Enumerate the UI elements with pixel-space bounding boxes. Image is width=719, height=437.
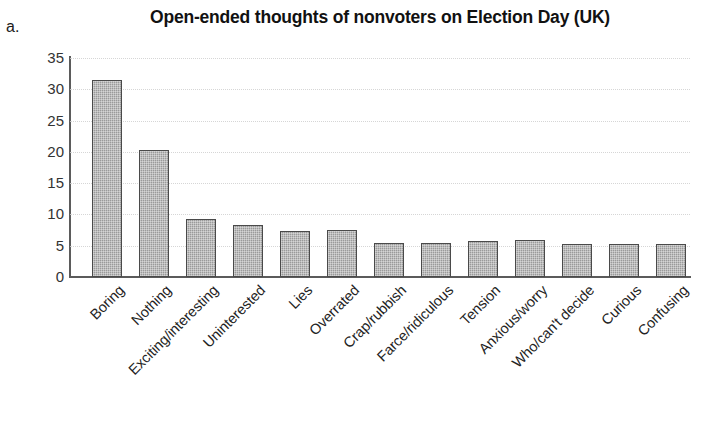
category-label: Who/can't decide — [508, 282, 597, 371]
bar — [609, 244, 639, 277]
category-label: Nothing — [128, 282, 174, 328]
chart-figure: a. Open-ended thoughts of nonvoters on E… — [0, 0, 719, 437]
bar — [186, 219, 216, 277]
bar — [468, 241, 498, 277]
bar — [92, 80, 122, 277]
y-tick-label: 15 — [24, 175, 64, 190]
y-tick-label: 20 — [24, 144, 64, 159]
bar — [421, 243, 451, 277]
y-tick-label: 0 — [24, 269, 64, 284]
category-label: Confusing — [634, 282, 691, 339]
chart-title: Open-ended thoughts of nonvoters on Elec… — [60, 6, 700, 28]
category-label: Boring — [86, 282, 127, 323]
category-label: Tension — [457, 282, 503, 328]
category-label: Lies — [285, 282, 315, 312]
bar — [562, 244, 592, 277]
y-axis-tick-labels: 05101520253035 — [20, 0, 64, 437]
bar — [233, 225, 263, 277]
panel-letter: a. — [6, 18, 19, 36]
bar — [515, 240, 545, 277]
category-label: Exciting/interesting — [125, 282, 221, 378]
plot-area — [70, 58, 690, 277]
gridline — [70, 121, 690, 123]
category-label: Curious — [598, 282, 644, 328]
gridline — [70, 89, 690, 91]
bar — [280, 231, 310, 277]
gridline — [70, 58, 690, 60]
y-tick-label: 35 — [24, 50, 64, 65]
bar — [327, 230, 357, 277]
y-tick-label: 30 — [24, 81, 64, 96]
bar — [139, 150, 169, 277]
y-tick-label: 10 — [24, 206, 64, 221]
bar — [374, 243, 404, 277]
bar — [656, 244, 686, 277]
y-tick-label: 25 — [24, 113, 64, 128]
y-tick-label: 5 — [24, 238, 64, 253]
